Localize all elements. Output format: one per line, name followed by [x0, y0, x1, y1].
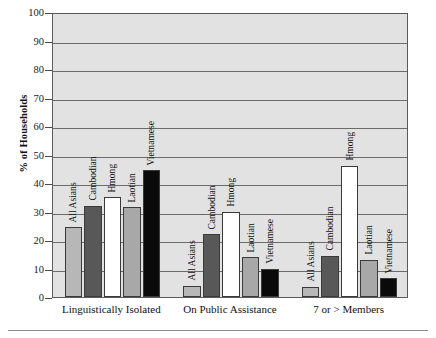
y-tick-label-70: 70 [0, 94, 44, 105]
gridline-60 [53, 128, 407, 129]
bar-7-or-members-vietnamese: Vietnamese [380, 278, 398, 297]
y-tick-label-30: 30 [0, 208, 44, 219]
y-tick-mark-90 [45, 42, 52, 43]
y-tick-label-0: 0 [0, 293, 44, 304]
y-tick-label-100: 100 [0, 8, 44, 19]
gridline-70 [53, 100, 407, 101]
bar-label-cambodian: Cambodian [325, 206, 335, 250]
x-group-label-linguistically-isolated: Linguistically Isolated [52, 303, 171, 315]
x-group-label-on-public-assistance: On Public Assistance [171, 303, 290, 315]
bar-label-laotian: Laotian [127, 173, 137, 202]
y-tick-label-90: 90 [0, 37, 44, 48]
y-tick-mark-30 [45, 213, 52, 214]
bar-label-vietnamese: Vietnamese [146, 120, 156, 165]
gridline-80 [53, 71, 407, 72]
y-tick-label-60: 60 [0, 122, 44, 133]
bar-7-or-members-hmong: Hmong [341, 166, 359, 297]
bar-label-cambodian: Cambodian [88, 157, 98, 201]
y-tick-label-80: 80 [0, 65, 44, 76]
y-tick-mark-20 [45, 241, 52, 242]
bar-label-hmong: Hmong [107, 163, 117, 192]
x-group-label-7-or-members: 7 or > Members [289, 303, 408, 315]
bar-linguistically-isolated-all-asians: All Asians [65, 227, 83, 297]
bar-label-laotian: Laotian [364, 226, 374, 255]
bar-on-public-assistance-cambodian: Cambodian [203, 234, 221, 297]
bar-label-all-asians: All Asians [68, 182, 78, 222]
bar-linguistically-isolated-laotian: Laotian [123, 207, 141, 297]
y-tick-mark-50 [45, 156, 52, 157]
y-tick-mark-40 [45, 184, 52, 185]
bar-linguistically-isolated-cambodian: Cambodian [84, 206, 102, 297]
y-tick-mark-70 [45, 99, 52, 100]
bar-label-all-asians: All Asians [306, 242, 316, 282]
bar-label-laotian: Laotian [245, 223, 255, 252]
bar-7-or-members-all-asians: All Asians [302, 287, 320, 297]
y-tick-label-40: 40 [0, 179, 44, 190]
bar-linguistically-isolated-vietnamese: Vietnamese [143, 170, 161, 297]
gridline-90 [53, 43, 407, 44]
y-tick-mark-80 [45, 70, 52, 71]
bar-on-public-assistance-all-asians: All Asians [183, 286, 201, 297]
plot-area: All AsiansCambodianHmongLaotianVietnames… [52, 13, 408, 298]
bar-label-vietnamese: Vietnamese [265, 219, 275, 264]
bar-linguistically-isolated-hmong: Hmong [104, 197, 122, 297]
y-tick-label-20: 20 [0, 236, 44, 247]
y-tick-mark-100 [45, 13, 52, 14]
bar-7-or-members-cambodian: Cambodian [321, 256, 339, 297]
y-tick-label-10: 10 [0, 265, 44, 276]
bar-label-cambodian: Cambodian [206, 185, 216, 229]
bar-on-public-assistance-laotian: Laotian [242, 257, 260, 297]
bar-label-hmong: Hmong [226, 178, 236, 207]
y-tick-mark-0 [45, 298, 52, 299]
bar-on-public-assistance-hmong: Hmong [222, 212, 240, 298]
y-tick-mark-60 [45, 127, 52, 128]
bar-chart-figure: % of Households 1009080706050403020100 A… [0, 0, 436, 338]
bar-label-vietnamese: Vietnamese [384, 229, 394, 274]
bar-label-hmong: Hmong [345, 132, 355, 161]
bar-7-or-members-laotian: Laotian [360, 260, 378, 297]
bar-label-all-asians: All Asians [187, 240, 197, 280]
bar-on-public-assistance-vietnamese: Vietnamese [261, 269, 279, 298]
y-tick-mark-10 [45, 270, 52, 271]
bottom-divider [8, 330, 428, 331]
y-tick-label-50: 50 [0, 151, 44, 162]
